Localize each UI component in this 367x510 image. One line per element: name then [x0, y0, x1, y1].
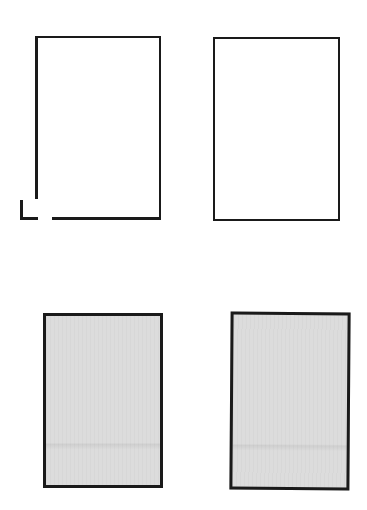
outlined-rectangle-top-right	[213, 37, 340, 221]
rectangle-left-edge	[35, 36, 38, 199]
outlined-rectangle-top-left	[35, 36, 161, 220]
filled-rectangle-bottom-right	[229, 312, 350, 491]
filled-rectangle-bottom-left	[43, 313, 163, 488]
rectangle-bottom-edge	[52, 217, 161, 220]
corner-mark	[20, 200, 38, 220]
